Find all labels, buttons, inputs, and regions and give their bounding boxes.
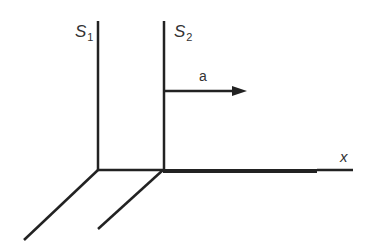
acceleration-arrow xyxy=(164,86,247,96)
x-axis xyxy=(163,170,353,171)
acceleration-label: a xyxy=(199,68,207,84)
x-axis-label: x xyxy=(340,148,348,165)
frame-s2-axes xyxy=(98,21,164,229)
s2-depth-axis xyxy=(98,170,163,229)
frame-s2-label: S2 xyxy=(174,22,192,43)
arrow-head-icon xyxy=(232,86,247,96)
frame-s1-axes xyxy=(24,21,163,240)
s1-depth-axis xyxy=(24,170,98,240)
frame-s1-label: S1 xyxy=(75,22,93,43)
